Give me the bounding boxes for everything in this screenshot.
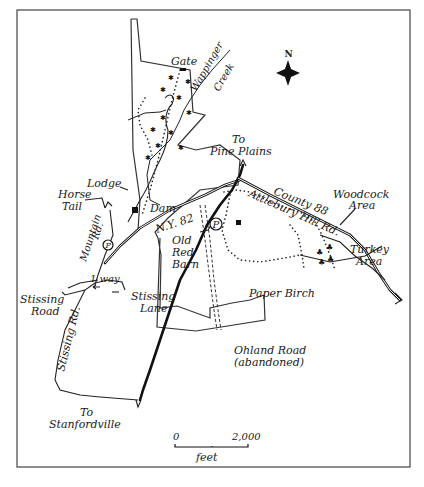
svg-text:♣: ♣: [316, 248, 323, 257]
label-pine-plains: Pine Plains: [209, 145, 272, 158]
map-frame: [17, 10, 410, 467]
label-tail: Tail: [62, 200, 83, 213]
svg-text:✱: ✱: [150, 126, 156, 134]
label-stanfordville: Stanfordville: [49, 418, 121, 431]
svg-text:✱: ✱: [168, 74, 174, 82]
label-dam: Dam: [149, 202, 176, 215]
property-boundary: [131, 19, 265, 331]
label-woodcock-area: Area: [348, 199, 375, 212]
scale-end: 2,000: [231, 431, 261, 442]
svg-text:✱: ✱: [186, 109, 192, 117]
svg-text:✱: ✱: [145, 154, 151, 162]
svg-text:✱: ✱: [178, 144, 184, 152]
scale-bar: 0 2,000 feet: [173, 431, 261, 464]
parking-label-2: P: [105, 241, 112, 250]
svg-text:N: N: [285, 49, 293, 59]
trail-map: P P N Gate Wappinger Creek To Pine Plain…: [0, 0, 424, 487]
gate-marker: [180, 68, 186, 71]
tree-symbols: ♣♣♣♣: [316, 243, 334, 267]
north-star-icon: N: [276, 49, 300, 86]
label-gate: Gate: [171, 55, 198, 68]
svg-text:♣: ♣: [327, 255, 334, 264]
wappinger-creek: [147, 50, 230, 205]
label-abandoned: (abandoned): [234, 356, 304, 369]
label-stissing-lane-2: Lane: [139, 302, 168, 315]
label-stissing-road-2: Road: [30, 305, 60, 318]
svg-text:✱: ✱: [176, 94, 182, 102]
svg-text:✱: ✱: [160, 114, 166, 122]
svg-text:✱: ✱: [168, 129, 174, 137]
svg-text:✱: ✱: [160, 86, 166, 94]
to-stanfordville-arrow: [136, 400, 141, 407]
label-one-way: 1 way: [90, 273, 120, 284]
svg-text:✱: ✱: [185, 78, 191, 86]
scale-start: 0: [173, 431, 180, 442]
svg-text:♣: ♣: [318, 258, 325, 267]
scale-unit: feet: [195, 451, 218, 464]
label-paper-birch: Paper Birch: [248, 287, 315, 300]
label-turkey-area: Area: [355, 255, 382, 268]
one-way-arrow: [93, 285, 100, 289]
parking-label: P: [212, 219, 220, 230]
svg-text:♣: ♣: [326, 243, 333, 252]
label-creek: Creek: [211, 61, 236, 93]
label-barn: Barn: [171, 258, 199, 271]
barn-marker: [236, 220, 241, 225]
svg-text:✱: ✱: [155, 142, 161, 150]
dam-marker: [132, 207, 138, 213]
